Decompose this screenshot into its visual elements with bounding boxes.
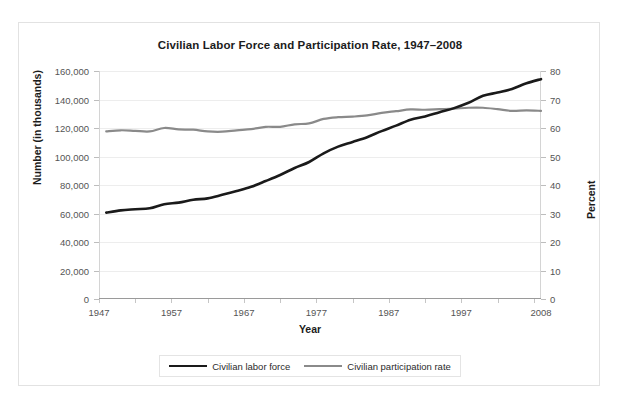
legend-label: Civilian labor force xyxy=(212,361,290,372)
y-axis-left-tick-label: 40,000 xyxy=(27,237,89,248)
x-axis-tick xyxy=(135,299,136,303)
x-axis-tick-label: 1947 xyxy=(74,307,124,318)
y-axis-left-tick-label: 160,000 xyxy=(27,66,89,77)
y-axis-right-tick xyxy=(541,214,546,215)
y-axis-right-tick-label: 0 xyxy=(550,294,590,305)
y-axis-left-tick xyxy=(94,128,99,129)
legend-item: Civilian participation rate xyxy=(304,361,451,372)
x-axis-tick xyxy=(208,299,209,303)
y-axis-right-tick xyxy=(541,185,546,186)
chart-frame: Civilian Labor Force and Participation R… xyxy=(18,22,600,386)
y-axis-left-tick xyxy=(94,214,99,215)
y-axis-right-tick-label: 70 xyxy=(550,94,590,105)
y-axis-right-tick xyxy=(541,157,546,158)
legend-item: Civilian labor force xyxy=(169,361,290,372)
x-axis-tick xyxy=(461,299,462,303)
legend-swatch xyxy=(169,365,207,368)
legend-swatch xyxy=(304,365,342,367)
x-axis-tick xyxy=(389,299,390,303)
y-axis-left-tick-label: 60,000 xyxy=(27,208,89,219)
series-lines xyxy=(99,71,541,299)
x-axis-tick xyxy=(99,299,100,303)
x-axis-tick xyxy=(353,299,354,303)
x-axis-tick-label: 1967 xyxy=(219,307,269,318)
legend-label: Civilian participation rate xyxy=(347,361,451,372)
x-axis-tick-label: 1977 xyxy=(291,307,341,318)
chart-legend: Civilian labor forceCivilian participati… xyxy=(159,355,461,377)
x-axis-tick xyxy=(244,299,245,303)
x-axis-tick-label: 2008 xyxy=(516,307,566,318)
chart-title: Civilian Labor Force and Participation R… xyxy=(19,39,601,51)
y-axis-left-tick-label: 140,000 xyxy=(27,94,89,105)
y-axis-left-tick-label: 20,000 xyxy=(27,265,89,276)
y-axis-left-tick xyxy=(94,71,99,72)
y-axis-right-tick-label: 10 xyxy=(550,265,590,276)
y-axis-left-tick-label: 100,000 xyxy=(27,151,89,162)
x-axis-tick xyxy=(425,299,426,303)
y-axis-left-tick xyxy=(94,157,99,158)
y-axis-left-tick xyxy=(94,100,99,101)
plot-area xyxy=(99,71,541,299)
y-axis-right-tick-label: 30 xyxy=(550,208,590,219)
x-axis-tick xyxy=(498,299,499,303)
x-axis-tick xyxy=(280,299,281,303)
line-civilian-participation-rate xyxy=(106,108,541,132)
y-axis-left-tick-label: 120,000 xyxy=(27,123,89,134)
x-axis-tick xyxy=(316,299,317,303)
x-axis-tick-label: 1987 xyxy=(364,307,414,318)
y-axis-right-tick-label: 20 xyxy=(550,237,590,248)
line-civilian-labor-force xyxy=(106,79,541,212)
y-axis-right-tick-label: 80 xyxy=(550,66,590,77)
x-axis-tick-label: 1957 xyxy=(146,307,196,318)
y-axis-right-tick-label: 60 xyxy=(550,123,590,134)
y-axis-right-tick xyxy=(541,71,546,72)
y-axis-left-tick xyxy=(94,185,99,186)
y-axis-right-tick-label: 40 xyxy=(550,180,590,191)
x-axis-tick xyxy=(171,299,172,303)
y-axis-right-tick xyxy=(541,271,546,272)
y-axis-right-tick xyxy=(541,100,546,101)
y-axis-left-tick xyxy=(94,242,99,243)
x-axis-tick-label: 1997 xyxy=(436,307,486,318)
y-axis-left-tick xyxy=(94,271,99,272)
x-axis-tick xyxy=(534,299,535,303)
y-axis-left-tick-label: 80,000 xyxy=(27,180,89,191)
y-axis-right-tick-label: 50 xyxy=(550,151,590,162)
y-axis-right-tick xyxy=(541,242,546,243)
y-axis-left-tick-label: 0 xyxy=(27,294,89,305)
y-axis-right-tick xyxy=(541,128,546,129)
x-axis-title: Year xyxy=(19,323,601,335)
y-axis-right-tick xyxy=(541,299,546,300)
